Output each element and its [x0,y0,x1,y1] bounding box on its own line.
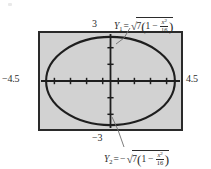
equation-y1: Y1=√7(1 − x216) [114,17,173,34]
x-min-label: −4.5 [2,74,19,84]
plot-area [38,31,183,131]
y-max-label: 3 [92,19,97,29]
x-max-label: 4.5 [186,74,198,84]
equation-y2-radicand: 7(1 − x216) [132,150,169,167]
equation-y1-name: Y1 [114,21,123,31]
graph-figure: −4.5 4.5 3 −3 Y1=√7(1 − x216) Y2=−√7(1 −… [0,0,211,169]
equation-y2-name: Y2 [104,154,113,164]
equation-y2-fraction: x216 [156,151,165,167]
equation-y1-close-paren: ) [169,19,173,34]
scan-artifact [8,3,12,6]
equation-y2: Y2=−√7(1 − x216) [104,150,169,167]
y-min-label: −3 [92,133,102,143]
equation-y1-radicand: 7(1 − x216) [136,17,173,34]
equation-y2-equals: = [113,154,120,164]
equation-y2-radical: √7(1 − x216) [126,150,169,167]
equation-y1-radical: √7(1 − x216) [130,17,173,34]
equation-y2-close-paren: ) [165,152,169,167]
equation-y1-equals: = [123,21,130,31]
equation-y1-fraction: x216 [160,18,169,34]
